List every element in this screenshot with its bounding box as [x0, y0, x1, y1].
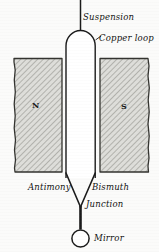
label-junction: Junction [86, 200, 123, 209]
diagram-figure: Suspension Copper loop Antimony Bismuth … [0, 0, 159, 252]
south-pole-piece [100, 59, 149, 173]
label-suspension: Suspension [83, 13, 134, 22]
copper-loop [66, 31, 95, 208]
label-copper-loop: Copper loop [99, 34, 154, 43]
pole-label-north: N [32, 101, 39, 109]
label-bismuth: Bismuth [92, 183, 129, 192]
label-antimony: Antimony [28, 183, 71, 192]
mirror-circle [72, 230, 89, 247]
north-pole-piece [14, 59, 62, 173]
label-mirror: Mirror [94, 234, 124, 243]
pole-label-south: S [121, 102, 127, 110]
